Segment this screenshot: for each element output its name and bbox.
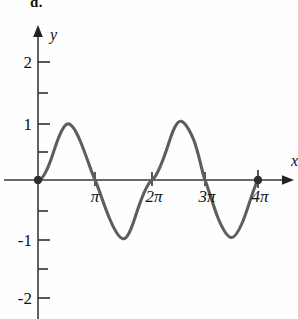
figure-panel: d. 2 1 -1 -2 π 2π 3 xyxy=(0,0,298,319)
y-axis-label: y xyxy=(48,26,58,44)
y-tick-label-minus-1: -1 xyxy=(18,231,32,250)
y-axis-arrowhead xyxy=(33,25,43,37)
x-axis-label: x xyxy=(290,152,298,169)
x-axis-arrowhead xyxy=(282,175,294,185)
x-tick-label-3pi: 3π xyxy=(197,187,216,206)
y-tick-label-2: 2 xyxy=(24,53,33,72)
y-tick-label-1: 1 xyxy=(24,115,33,134)
sine-graph: 2 1 -1 -2 π 2π 3π 4π y x xyxy=(0,0,298,319)
x-tick-label-pi: π xyxy=(91,187,100,206)
endpoint-dot-origin xyxy=(34,176,42,184)
x-tick-label-2pi: 2π xyxy=(145,187,163,206)
y-tick-label-minus-2: -2 xyxy=(18,289,32,308)
x-tick-label-4pi: 4π xyxy=(251,187,269,206)
endpoint-dot-4pi xyxy=(254,176,262,184)
